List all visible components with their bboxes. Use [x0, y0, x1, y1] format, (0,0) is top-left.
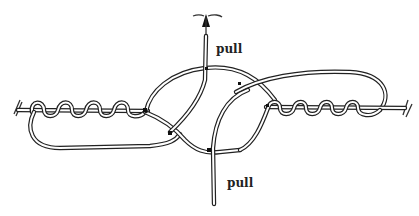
- right-upper-arc: [236, 72, 385, 110]
- pull-label-top: pull: [216, 42, 242, 56]
- top-tag-end: [170, 36, 206, 132]
- right-standing-line: [266, 107, 405, 108]
- pull-arrow-up-icon: [202, 14, 210, 34]
- top-cut-end: [193, 15, 222, 17]
- pull-label-bottom: pull: [227, 176, 253, 190]
- left-upper-arc: [146, 67, 275, 111]
- knot-diagram: [0, 0, 419, 216]
